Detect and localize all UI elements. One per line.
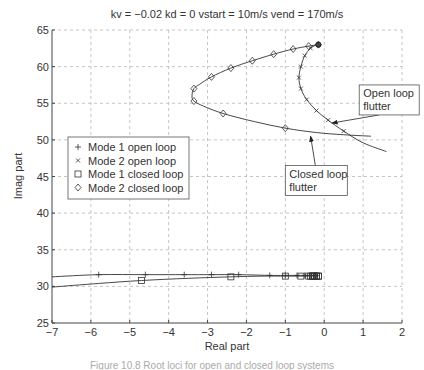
series-line <box>192 45 371 137</box>
series-mode-2-closed-loop <box>191 41 371 136</box>
legend-item-label: Mode 2 closed loop <box>88 182 183 194</box>
plus-marker-icon <box>208 272 214 278</box>
x-tick-label: −3 <box>201 326 214 338</box>
x-tick-label: −1 <box>279 326 292 338</box>
x-tick-label: −6 <box>85 326 98 338</box>
plus-marker-icon <box>267 272 273 278</box>
open-loop-flutter-annotation: Open loopflutter <box>332 85 419 123</box>
x-tick-label: 2 <box>399 326 405 338</box>
x-marker-icon <box>305 98 309 102</box>
annotation-text: flutter <box>363 100 391 112</box>
plus-marker-icon <box>96 272 102 278</box>
closed-loop-flutter-annotation: Closed loopflutter <box>285 136 347 195</box>
x-tick-labels: −7−6−5−4−3−2−1012 <box>46 326 405 338</box>
figure-caption: Figure 10.8 Root loci for open and close… <box>0 360 424 370</box>
series-mode-1-open-loop <box>52 272 319 279</box>
series-line <box>52 276 318 287</box>
y-axis-label: Imag part <box>12 153 24 199</box>
x-tick-label: −4 <box>162 326 175 338</box>
start-cluster-marker-icon <box>316 42 321 47</box>
annotation-arrow <box>332 115 379 123</box>
plus-marker-icon <box>181 272 187 278</box>
x-marker-icon <box>314 109 318 113</box>
legend-item-label: Mode 1 open loop <box>88 141 176 153</box>
annotation-text: Open loop <box>363 87 414 99</box>
y-tick-label: 50 <box>37 134 49 146</box>
x-tick-label: −2 <box>240 326 253 338</box>
y-tick-label: 25 <box>37 317 49 329</box>
y-tick-labels: 253035404550556065 <box>37 24 49 329</box>
y-tick-label: 30 <box>37 280 49 292</box>
annotation-text: Closed loop <box>289 168 347 180</box>
y-tick-label: 60 <box>37 61 49 73</box>
x-axis-label: Real part <box>205 340 250 352</box>
chart-title: kv = −0.02 kd = 0 vstart = 10m/s vend = … <box>111 8 344 20</box>
root-locus-chart: kv = −0.02 kd = 0 vstart = 10m/s vend = … <box>0 0 424 370</box>
y-tick-label: 45 <box>37 171 49 183</box>
y-tick-label: 55 <box>37 97 49 109</box>
legend-item-label: Mode 2 open loop <box>88 155 176 167</box>
y-tick-label: 65 <box>37 24 49 36</box>
x-marker-icon <box>326 118 330 122</box>
y-tick-label: 35 <box>37 244 49 256</box>
legend: Mode 1 open loopMode 2 open loopMode 1 c… <box>68 137 189 199</box>
x-tick-label: 0 <box>321 326 327 338</box>
legend-item-label: Mode 1 closed loop <box>88 168 183 180</box>
annotation-arrow <box>311 136 316 165</box>
x-tick-label: 1 <box>360 326 366 338</box>
plus-marker-icon <box>142 272 148 278</box>
x-marker-icon <box>303 54 307 58</box>
y-tick-label: 40 <box>37 207 49 219</box>
x-marker-icon <box>342 129 346 133</box>
x-tick-label: −5 <box>124 326 137 338</box>
annotation-text: flutter <box>289 181 317 193</box>
